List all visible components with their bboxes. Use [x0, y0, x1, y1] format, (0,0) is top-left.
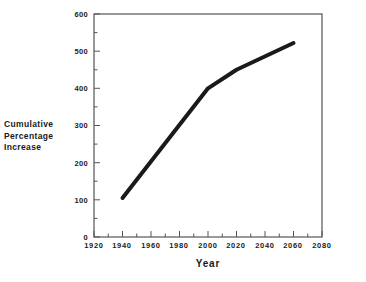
y-axis-ticks — [94, 14, 100, 237]
plot-area — [0, 0, 366, 282]
x-axis-ticks — [94, 231, 322, 237]
data-series-line — [123, 43, 294, 198]
chart-figure: Cumulative Percentage Increase Year 600 … — [0, 0, 366, 282]
